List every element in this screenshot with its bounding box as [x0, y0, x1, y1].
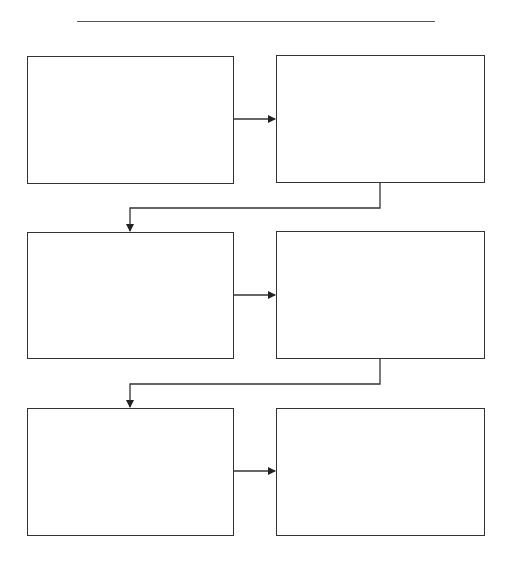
flow-box-6[interactable]	[276, 408, 485, 536]
arrow-box4-to-box5	[130, 358, 380, 407]
flow-box-2[interactable]	[276, 55, 485, 183]
flow-box-4-text[interactable]	[283, 238, 478, 352]
flow-box-1[interactable]	[27, 56, 234, 184]
flow-box-4[interactable]	[276, 231, 485, 359]
flow-box-5-text[interactable]	[34, 415, 227, 529]
flow-box-6-text[interactable]	[283, 415, 478, 529]
arrow-box2-to-box3	[130, 182, 380, 231]
flow-box-5[interactable]	[27, 408, 234, 536]
title-underline[interactable]	[77, 21, 435, 22]
flow-box-3[interactable]	[27, 232, 234, 359]
flow-box-1-text[interactable]	[34, 63, 227, 177]
flow-box-2-text[interactable]	[283, 62, 478, 176]
flow-box-3-text[interactable]	[34, 239, 227, 352]
